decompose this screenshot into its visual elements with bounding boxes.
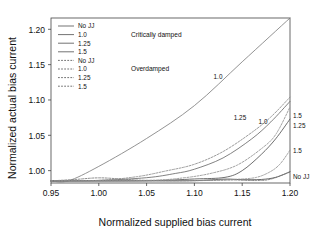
curve-label: 1.25 bbox=[293, 122, 306, 129]
x-tick-label: 1.00 bbox=[91, 188, 108, 198]
curve-label: 1.5 bbox=[293, 147, 302, 154]
legend-label: 1.25 bbox=[78, 74, 91, 81]
chart-container: 0.951.001.051.101.151.20 1.001.051.101.1… bbox=[0, 0, 312, 231]
legend-label: No JJ bbox=[78, 22, 94, 29]
x-tick-label: 1.15 bbox=[234, 188, 251, 198]
x-tick-label: 1.20 bbox=[282, 188, 299, 198]
curve-label: 1.5 bbox=[293, 112, 302, 119]
legend-group-label-critically-damped: Critically damped bbox=[131, 31, 182, 39]
curve-label: 1.0 bbox=[259, 118, 268, 125]
legend-group-label-overdamped: Overdamped bbox=[131, 65, 169, 73]
x-tick-label: 1.05 bbox=[138, 188, 155, 198]
x-tick-label: 0.95 bbox=[43, 188, 60, 198]
y-tick-label: 1.15 bbox=[28, 60, 45, 70]
x-axis-title: Normalized supplied bias current bbox=[99, 216, 252, 228]
legend-label: 1.0 bbox=[78, 31, 87, 38]
curve-label: 1.25 bbox=[234, 114, 247, 121]
legend-label: 1.0 bbox=[78, 65, 87, 72]
x-tick-label: 1.10 bbox=[186, 188, 203, 198]
curve-label: No JJ bbox=[293, 173, 309, 180]
curve-label: 1.0 bbox=[214, 73, 223, 80]
line-chart: 0.951.001.051.101.151.20 1.001.051.101.1… bbox=[0, 0, 312, 231]
y-tick-label: 1.20 bbox=[28, 25, 45, 35]
y-tick-label: 1.00 bbox=[28, 166, 45, 176]
y-axis-title: Normalized actual bias current bbox=[6, 37, 18, 179]
legend-label: 1.5 bbox=[78, 48, 87, 55]
legend-label: No JJ bbox=[78, 57, 94, 64]
y-tick-label: 1.10 bbox=[28, 95, 45, 105]
legend-label: 1.5 bbox=[78, 83, 87, 90]
y-tick-label: 1.05 bbox=[28, 131, 45, 141]
legend-label: 1.25 bbox=[78, 40, 91, 47]
